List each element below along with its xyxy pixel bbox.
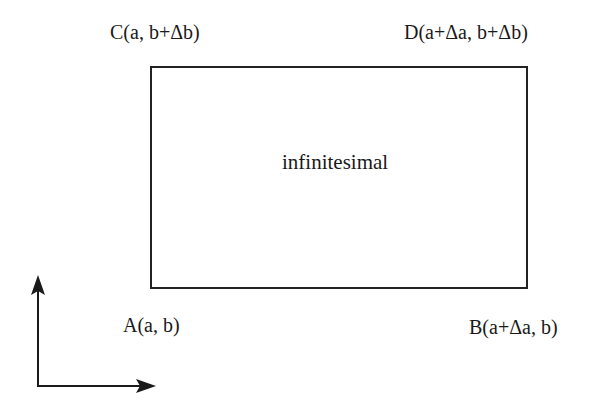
vertical-axis-arrow-icon [31,275,45,386]
axes [0,0,613,414]
diagram-canvas: C(a, b+Δb) D(a+Δa, b+Δb) infinitesimal A… [0,0,613,414]
horizontal-axis-arrow-icon [37,379,156,393]
